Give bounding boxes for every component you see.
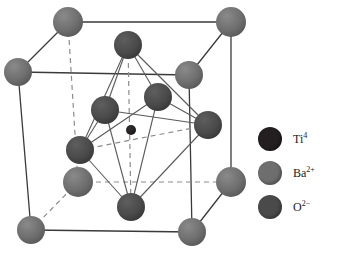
ti-body-center-atom xyxy=(126,125,136,135)
ba-front-bottom-right-atom xyxy=(178,218,206,246)
legend: Ti4 Ba2+ O2− xyxy=(258,122,343,232)
crystal-structure-figure: Ti4 Ba2+ O2− xyxy=(0,0,343,256)
edge-front-left xyxy=(18,72,31,230)
ba-back-bottom-left-atom xyxy=(63,167,93,197)
ba-back-bottom-right-atom xyxy=(216,167,246,197)
titanium-swatch-icon xyxy=(258,127,282,151)
edge-front-top xyxy=(18,72,189,75)
o-face-left-atom xyxy=(66,136,94,164)
legend-item-oxygen: O2− xyxy=(258,194,310,220)
legend-symbol-oxygen: O xyxy=(293,200,302,214)
legend-charge-titanium: 4 xyxy=(303,131,307,140)
edge-front-right xyxy=(189,75,192,232)
legend-symbol-barium: Ba xyxy=(293,166,306,180)
legend-charge-barium: 2+ xyxy=(306,165,315,174)
o-face-front-atom xyxy=(91,96,119,124)
ba-front-bottom-left-atom xyxy=(17,216,45,244)
oxygen-swatch-icon xyxy=(258,195,282,219)
ba-front-top-right-atom xyxy=(175,61,203,89)
legend-label-barium: Ba2+ xyxy=(293,167,315,179)
legend-charge-oxygen: 2− xyxy=(302,199,311,208)
legend-item-titanium: Ti4 xyxy=(258,126,307,152)
o-face-right-atom xyxy=(194,111,222,139)
bond-bottom-back xyxy=(131,97,158,207)
o-face-bottom-atom xyxy=(117,193,145,221)
o-face-back-atom xyxy=(144,83,172,111)
o-face-top-atom xyxy=(114,31,142,59)
legend-label-titanium: Ti4 xyxy=(293,133,307,145)
legend-symbol-titanium: Ti xyxy=(293,132,303,146)
ba-back-top-right-atom xyxy=(216,7,246,37)
legend-item-barium: Ba2+ xyxy=(258,160,315,186)
titanium-atoms xyxy=(126,125,136,135)
edge-front-bottom xyxy=(31,230,192,232)
ba-front-top-left-atom xyxy=(4,58,32,86)
legend-label-oxygen: O2− xyxy=(293,201,310,213)
ba-back-top-left-atom xyxy=(53,7,83,37)
barium-swatch-icon xyxy=(258,161,282,185)
